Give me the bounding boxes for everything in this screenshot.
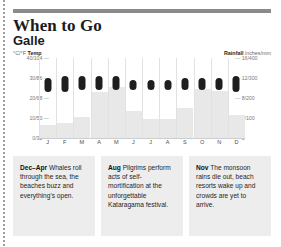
month-column (194, 58, 211, 138)
season-note-period: Nov (196, 164, 208, 171)
rainfall-bar (57, 123, 73, 138)
month-column (159, 58, 176, 138)
temperature-range-marker (147, 80, 154, 90)
chart-plot-area (39, 58, 245, 138)
season-note: Aug Pilgrims perform acts of self-mortif… (101, 156, 183, 236)
seasonal-notes: Dec–Apr Whales roll through the sea, the… (13, 156, 271, 236)
month-label: J (125, 139, 142, 145)
month-label: M (73, 139, 90, 145)
temperature-range-marker (96, 76, 103, 90)
rainfall-bar (109, 87, 125, 138)
rainfall-bar (229, 115, 245, 138)
rainfall-bar (92, 92, 108, 138)
temperature-range-marker (216, 78, 223, 90)
season-note-period: Dec–Apr (20, 164, 47, 171)
month-column (91, 58, 108, 138)
temperature-range-marker (233, 76, 240, 92)
temperature-range-marker (78, 76, 85, 90)
month-label: J (142, 139, 159, 145)
month-label: D (228, 139, 245, 145)
when-to-go-infographic: When to Go Galle °C/°F Temp Rainfall inc… (0, 0, 281, 247)
season-note: Dec–Apr Whales roll through the sea, the… (13, 156, 95, 236)
month-column (73, 58, 90, 138)
month-label: N (211, 139, 228, 145)
rainfall-bar (195, 89, 211, 138)
month-column (228, 58, 245, 138)
month-label: A (159, 139, 176, 145)
month-axis: JFMAMJJASOND (39, 138, 245, 148)
temperature-range-marker (181, 78, 188, 90)
temperature-legend-units: °C/°F (13, 50, 26, 56)
rainfall-bar (177, 108, 193, 138)
season-note-period: Aug (108, 164, 121, 171)
page-subtitle: Galle (13, 34, 45, 48)
rainfall-bar (212, 91, 228, 138)
rainfall-bar (143, 119, 159, 138)
month-column (108, 58, 125, 138)
month-label: M (108, 139, 125, 145)
temperature-range-marker (164, 80, 171, 90)
temperature-range-marker (199, 78, 206, 90)
rainfall-bar (40, 125, 56, 138)
month-column (142, 58, 159, 138)
temperature-range-marker (113, 76, 120, 90)
month-label: A (91, 139, 108, 145)
month-column (125, 58, 142, 138)
month-column (39, 58, 56, 138)
month-column (56, 58, 73, 138)
month-label: O (194, 139, 211, 145)
month-column (211, 58, 228, 138)
rainfall-bar (126, 111, 142, 138)
temperature-range-marker (130, 80, 137, 90)
month-label: F (56, 139, 73, 145)
month-column (176, 58, 193, 138)
top-divider-rule (13, 9, 271, 13)
rainfall-bar (160, 119, 176, 138)
temperature-range-marker (61, 76, 68, 92)
climate-chart: 40/104 —30/86 —20/68 —10/50 —0/32 — — 16… (13, 58, 271, 144)
season-note: Nov The monsoon rains die out, beach res… (189, 156, 271, 236)
temperature-range-marker (44, 78, 51, 92)
month-label: J (39, 139, 56, 145)
left-dotted-rule (3, 0, 5, 247)
rainfall-bar (74, 117, 90, 138)
month-label: S (176, 139, 193, 145)
